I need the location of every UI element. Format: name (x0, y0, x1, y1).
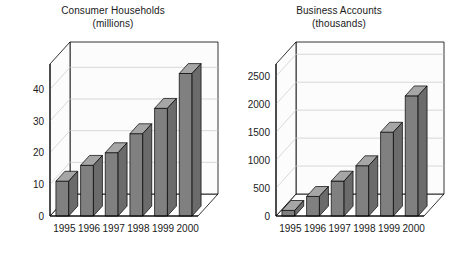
bar-group (81, 155, 103, 216)
x-axis-tick-label: 1997 (103, 223, 126, 234)
x-axis-tick-label: 1996 (78, 223, 101, 234)
x-axis-tick-label: 1999 (152, 223, 175, 234)
bar-front-face (56, 181, 69, 216)
bar-front-face (282, 210, 295, 216)
bar-side-face (192, 64, 201, 216)
bar-group (56, 171, 78, 216)
chart-plot-business-accounts: 0500100015002000250019951996199719981999… (226, 30, 452, 254)
bar-side-face (418, 86, 427, 216)
bar-group (356, 156, 378, 216)
bar-group (105, 143, 127, 216)
bar-front-face (155, 108, 168, 216)
x-axis-tick-label: 1996 (304, 223, 327, 234)
bar-front-face (381, 132, 394, 216)
bar-group (331, 171, 353, 216)
y-axis-tick-label: 30 (33, 116, 45, 127)
bar-front-face (130, 134, 143, 216)
y-axis-tick-label: 2000 (248, 99, 271, 110)
chart-title-line-1: Consumer Households (61, 5, 165, 16)
chart-panel-business-accounts: Business Accounts (thousands) 0500100015… (226, 0, 452, 254)
x-axis-tick-label: 2000 (403, 223, 426, 234)
bar-front-face (356, 166, 369, 216)
y-axis-tick-label: 20 (33, 147, 45, 158)
chart-title-line-2: (millions) (0, 17, 226, 30)
screenshot-canvas: Consumer Households (millions) 010203040… (0, 0, 452, 254)
y-axis-tick-label: 1500 (248, 127, 271, 138)
x-axis-tick-label: 1998 (353, 223, 376, 234)
bar-side-face (167, 98, 176, 216)
bar-group (130, 124, 152, 216)
bar-side-face (369, 156, 378, 216)
y-axis-tick-label: 40 (33, 84, 45, 95)
y-axis-tick-label: 0 (38, 211, 44, 222)
y-axis-tick-label: 500 (253, 183, 270, 194)
bar-group (381, 122, 403, 216)
bar-front-face (331, 181, 344, 216)
y-axis-tick-label: 1000 (248, 155, 271, 166)
bar-front-face (405, 96, 418, 216)
x-axis-tick-label: 1998 (127, 223, 150, 234)
bar-front-face (105, 153, 118, 216)
chart-title-line-1: Business Accounts (296, 5, 382, 16)
bar-front-face (179, 74, 192, 217)
x-axis-tick-label: 1995 (279, 223, 302, 234)
bar-group (179, 64, 201, 216)
chart-panel-consumer-households: Consumer Households (millions) 010203040… (0, 0, 226, 254)
x-axis-tick-label: 2000 (177, 223, 200, 234)
bar-group (405, 86, 427, 216)
chart-title-line-2: (thousands) (226, 17, 452, 30)
x-axis-tick-label: 1997 (329, 223, 352, 234)
x-axis-tick-label: 1995 (53, 223, 76, 234)
bar-side-face (118, 143, 127, 216)
y-axis-tick-label: 10 (33, 179, 45, 190)
bar-side-face (143, 124, 152, 216)
chart-title-consumer-households: Consumer Households (millions) (0, 4, 226, 30)
y-axis-tick-label: 0 (264, 211, 270, 222)
chart-plot-consumer-households: 010203040199519961997199819992000 (0, 30, 226, 254)
chart-title-business-accounts: Business Accounts (thousands) (226, 4, 452, 30)
x-axis-tick-label: 1999 (378, 223, 401, 234)
bar-front-face (81, 165, 94, 216)
bar-side-face (93, 155, 102, 216)
y-axis-tick-label: 2500 (248, 71, 271, 82)
bar-group (155, 98, 177, 216)
bar-side-face (393, 122, 402, 216)
bar-front-face (307, 196, 320, 216)
